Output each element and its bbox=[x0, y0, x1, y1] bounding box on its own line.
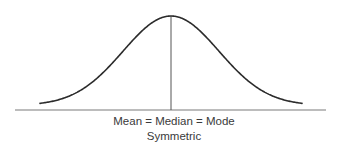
symmetric-distribution-figure: Mean = Median = Mode Symmetric bbox=[0, 0, 341, 152]
symmetric-label: Symmetric bbox=[0, 129, 341, 143]
mean-median-mode-label: Mean = Median = Mode bbox=[0, 114, 341, 128]
